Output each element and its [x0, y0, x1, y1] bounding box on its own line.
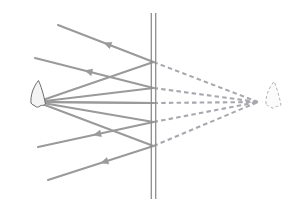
- ray-diagram-canvas: [0, 0, 300, 206]
- reflected-ray-3: [37, 102, 154, 103]
- ray-diagram-figure: [0, 0, 300, 206]
